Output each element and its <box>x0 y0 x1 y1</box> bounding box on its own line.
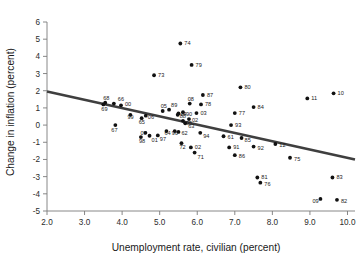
data-point-label: 82 <box>341 198 347 204</box>
data-point <box>319 197 323 201</box>
data-point <box>178 42 182 46</box>
data-point-label: 11 <box>311 95 317 101</box>
data-point <box>222 134 226 138</box>
data-point-label: 92 <box>258 145 264 151</box>
data-point-label: 02 <box>195 144 201 150</box>
data-point <box>183 121 187 125</box>
x-axis-title: Unemployment rate, civilian (percent) <box>112 242 281 253</box>
data-point-label: 68 <box>103 95 109 101</box>
data-point-label: 98 <box>139 138 145 144</box>
data-point-label: 71 <box>198 154 204 160</box>
data-point-label: 05 <box>161 103 167 109</box>
y-tick-label: 0 <box>35 121 40 130</box>
data-point <box>335 198 339 202</box>
data-point <box>112 102 116 106</box>
data-point-label: 07 <box>140 130 146 136</box>
data-point <box>273 142 277 146</box>
data-point-label: 97 <box>160 136 166 142</box>
data-point-label: 79 <box>196 62 202 68</box>
data-point-label: 66 <box>118 96 124 102</box>
x-axis-ticks: 2.03.04.05.06.07.08.09.010.0 <box>41 211 356 227</box>
y-tick-label: -5 <box>33 207 41 216</box>
data-point-label: 64 <box>164 130 170 136</box>
data-point <box>331 176 335 180</box>
data-point <box>119 103 123 107</box>
data-point-label: 86 <box>239 153 245 159</box>
data-point-label: 94 <box>203 133 209 139</box>
data-point-label: 75 <box>294 156 300 162</box>
data-points-group: 7479738010871168660078088469890577039004… <box>101 40 347 203</box>
data-point <box>161 109 165 113</box>
data-point <box>240 136 244 140</box>
data-point <box>195 111 199 115</box>
data-point-label: 99 <box>127 114 133 120</box>
y-tick-label: 4 <box>35 52 40 61</box>
data-point-label: 08 <box>188 96 194 102</box>
x-tick-label: 3.0 <box>79 218 91 227</box>
data-point <box>199 103 203 107</box>
phillips-curve-chart: 6543210-1-2-3-4-5 2.03.04.05.06.07.08.09… <box>0 0 363 259</box>
axes-group <box>47 22 355 211</box>
y-tick-label: 5 <box>35 35 40 44</box>
data-point <box>190 63 194 67</box>
data-point <box>193 151 197 155</box>
data-point-label: 76 <box>264 181 270 187</box>
data-point-label: 84 <box>258 104 264 110</box>
data-point <box>305 97 309 101</box>
data-point-label: 67 <box>111 127 117 133</box>
x-tick-label: 8.0 <box>267 218 279 227</box>
data-point-label: 88 <box>180 113 186 119</box>
data-point-label: 78 <box>205 101 211 107</box>
data-point-label: 65 <box>139 119 145 125</box>
data-point-label: 72 <box>179 144 185 150</box>
y-axis-ticks: 6543210-1-2-3-4-5 <box>33 18 47 216</box>
data-point-label: 62 <box>181 130 187 136</box>
y-tick-label: 3 <box>35 70 40 79</box>
data-point-label: 02 <box>192 117 198 123</box>
data-point-label: 61 <box>228 134 234 140</box>
data-point-label: 09 <box>312 198 318 204</box>
y-axis-title: Change in inflation (percent) <box>5 48 16 176</box>
data-point-label: 87 <box>207 92 213 98</box>
y-tick-label: 6 <box>35 18 40 27</box>
x-tick-label: 2.0 <box>41 218 53 227</box>
data-point-label: 73 <box>158 72 164 78</box>
data-point <box>239 85 243 89</box>
data-point-label: 69 <box>101 106 107 112</box>
y-tick-label: 2 <box>35 87 40 96</box>
x-tick-label: 10.0 <box>340 218 356 227</box>
data-point-label: 80 <box>244 84 250 90</box>
x-tick-label: 6.0 <box>192 218 204 227</box>
data-point-label: 12 <box>279 142 285 148</box>
data-point-label: 01 <box>152 137 158 143</box>
y-tick-label: -2 <box>33 155 41 164</box>
data-point <box>229 123 233 127</box>
data-point <box>188 102 192 106</box>
data-point <box>332 91 336 95</box>
data-point-label: 74 <box>184 40 190 46</box>
data-point-label: 85 <box>245 137 251 143</box>
data-point-label: 93 <box>235 122 241 128</box>
data-point-label: 83 <box>336 174 342 180</box>
data-point <box>255 176 259 180</box>
y-tick-label: 1 <box>35 104 40 113</box>
x-tick-label: 7.0 <box>229 218 241 227</box>
data-point <box>152 73 156 77</box>
x-tick-label: 9.0 <box>304 218 316 227</box>
data-point-label: 81 <box>261 174 267 180</box>
data-point <box>189 146 193 150</box>
x-tick-label: 5.0 <box>154 218 166 227</box>
data-point <box>252 145 256 149</box>
data-point-label: 06 <box>148 114 154 120</box>
data-point-label: 89 <box>171 102 177 108</box>
data-point <box>288 156 292 160</box>
y-tick-label: -3 <box>33 173 41 182</box>
y-tick-label: -1 <box>33 138 41 147</box>
data-point-label: 00 <box>125 101 131 107</box>
data-point <box>233 153 237 157</box>
data-point <box>227 146 231 150</box>
data-point <box>198 131 202 135</box>
data-point-label: 63 <box>188 123 194 129</box>
data-point <box>233 111 237 115</box>
scatter-plot-svg: 6543210-1-2-3-4-5 2.03.04.05.06.07.08.09… <box>0 0 363 259</box>
